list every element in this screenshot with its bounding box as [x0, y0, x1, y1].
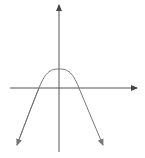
parabola-left-arrow	[17, 88, 39, 145]
parabola-curve	[17, 69, 103, 145]
graph-container	[0, 0, 145, 158]
parabola-graph	[0, 0, 145, 158]
